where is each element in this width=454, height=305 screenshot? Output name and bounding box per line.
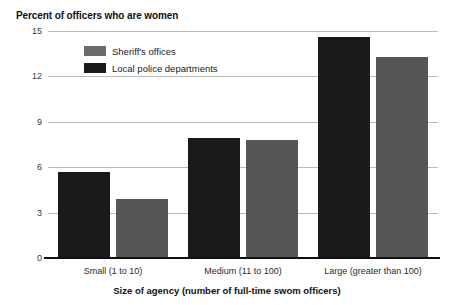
x-axis-title: Size of agency (number of full-time swom…	[113, 285, 341, 296]
y-tick-label: 3	[37, 208, 42, 218]
legend-item-local-police-departments: Local police departments	[84, 61, 218, 75]
bar	[376, 57, 428, 258]
legend-swatch-icon	[84, 63, 106, 73]
bar	[116, 199, 168, 258]
chart-title: Percent of officers who are women	[16, 10, 178, 21]
y-tick-label: 15	[32, 26, 42, 36]
legend-swatch-icon	[84, 46, 106, 56]
y-tick-label: 6	[37, 162, 42, 172]
y-tick-label: 0	[37, 253, 42, 263]
x-tick-label: Large (greater than 100)	[324, 266, 422, 276]
legend-label: Local police departments	[112, 63, 218, 74]
y-tick-label: 9	[37, 117, 42, 127]
y-tick-label: 12	[32, 71, 42, 81]
bar	[318, 37, 370, 258]
legend-label: Sheriff's offices	[112, 46, 176, 57]
bar-chart: Percent of officers who are women 036912…	[0, 0, 454, 305]
bar	[188, 138, 240, 258]
x-tick-label: Medium (11 to 100)	[204, 266, 281, 276]
x-tick-label: Small (1 to 10)	[84, 266, 143, 276]
x-axis-line	[44, 257, 440, 259]
bar	[246, 140, 298, 258]
legend: Sheriff's offices Local police departmen…	[84, 44, 218, 78]
bar-group	[308, 31, 438, 258]
legend-item-sheriffs-offices: Sheriff's offices	[84, 44, 218, 58]
bar	[58, 172, 110, 258]
